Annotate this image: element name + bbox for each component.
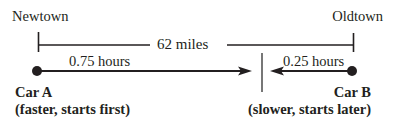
distance-label: 62 miles xyxy=(157,36,208,52)
car-b-time-label: 0.25 hours xyxy=(283,53,344,69)
car-a-time-label: 0.75 hours xyxy=(69,53,130,69)
oldtown-label: Oldtown xyxy=(332,8,383,24)
car-a-name: Car A xyxy=(15,84,52,100)
car-b-name: Car B xyxy=(334,84,371,100)
car-a-description: (faster, starts first) xyxy=(15,101,130,117)
newtown-label: Newtown xyxy=(12,8,68,24)
car-b-description: (slower, starts later) xyxy=(248,101,371,117)
